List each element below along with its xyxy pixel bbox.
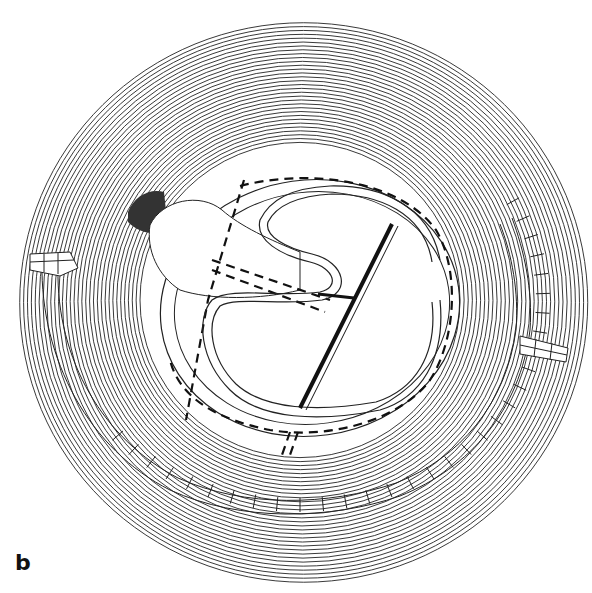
central-platform [144, 160, 477, 455]
plan-drawing [0, 0, 592, 593]
panel-label: b [15, 552, 31, 574]
plan-figure: b [0, 0, 592, 593]
